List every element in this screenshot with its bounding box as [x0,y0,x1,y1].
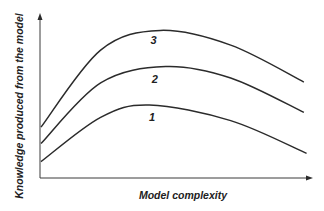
x-axis-arrow-icon [306,176,313,181]
curve-label-3: 3 [150,34,156,46]
curve-labels: 123 [149,34,158,123]
x-axis [40,176,313,181]
x-axis-label: Model complexity [139,189,228,201]
curve-2 [41,66,304,143]
curve-3 [41,30,304,127]
y-axis [38,13,43,178]
chart: 123 Model complexity Knowledge produced … [0,0,324,211]
curve-1 [41,105,307,162]
curve-label-2: 2 [151,73,158,85]
y-axis-arrow-icon [38,13,43,20]
curves [41,30,307,161]
y-axis-label: Knowledge produced from the model [13,12,25,199]
curve-label-1: 1 [149,111,155,123]
